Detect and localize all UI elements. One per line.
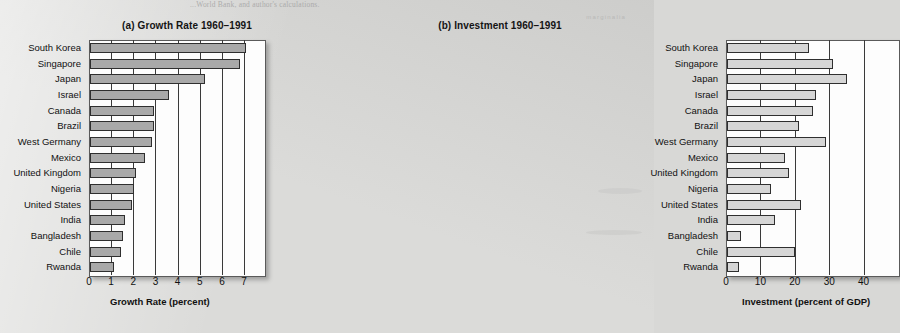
category-label: Bangladesh (644, 228, 722, 244)
category-label: Japan (0, 71, 85, 87)
bar-united-states (727, 200, 801, 210)
bar-bangladesh (727, 231, 741, 241)
bar-row (727, 56, 898, 72)
bar-west-germany (727, 137, 826, 147)
category-label: Nigeria (644, 181, 722, 197)
category-label: Bangladesh (0, 228, 85, 244)
x-tick-label: 0 (86, 276, 92, 287)
chart-panel-investment: (b) Investment 1960–1991 South KoreaSing… (322, 0, 654, 333)
category-label: Rwanda (644, 259, 722, 275)
bar-nigeria (727, 184, 771, 194)
bar-row (90, 56, 264, 72)
bar-singapore (727, 59, 833, 69)
bar-row (90, 181, 264, 197)
bar-united-states (90, 200, 132, 210)
category-label: Canada (644, 103, 722, 119)
x-tick-label: 0 (723, 276, 729, 287)
category-label: Brazil (644, 118, 722, 134)
bar-row (90, 259, 264, 275)
category-label: United Kingdom (644, 165, 722, 181)
bar-japan (727, 74, 847, 84)
bar-row (727, 259, 898, 275)
x-tick-label: 6 (219, 276, 225, 287)
x-tick-label: 4 (175, 276, 181, 287)
bar-row (90, 71, 264, 87)
x-tick-label: 30 (824, 276, 835, 287)
category-label: Chile (644, 244, 722, 260)
bar-row (90, 165, 264, 181)
bar-row (90, 244, 264, 260)
category-label: Japan (644, 71, 722, 87)
category-label: Mexico (644, 150, 722, 166)
bar-row (727, 118, 898, 134)
x-tick-label: 40 (858, 276, 869, 287)
bar-united-kingdom (90, 168, 136, 178)
bar-row (727, 150, 898, 166)
bar-row (727, 244, 898, 260)
category-label: Mexico (0, 150, 85, 166)
bar-bangladesh (90, 231, 123, 241)
x-tick-label: 5 (197, 276, 203, 287)
bar-singapore (90, 59, 240, 69)
bar-row (727, 228, 898, 244)
x-axis-ticks-a: 01234567 (89, 276, 264, 292)
category-label: India (0, 212, 85, 228)
category-label: Israel (0, 87, 85, 103)
category-labels-b: South KoreaSingaporeJapanIsraelCanadaBra… (644, 40, 722, 275)
bars-a (90, 40, 264, 275)
bar-row (90, 118, 264, 134)
bar-india (90, 215, 125, 225)
category-label: India (644, 212, 722, 228)
category-label: Israel (644, 87, 722, 103)
chart-title-a: (a) Growth Rate 1960–1991 (0, 20, 352, 31)
bar-row (727, 103, 898, 119)
bar-japan (90, 74, 205, 84)
bar-row (727, 40, 898, 56)
x-axis-ticks-b: 010203040 (726, 276, 898, 292)
category-label: West Germany (0, 134, 85, 150)
bar-row (727, 212, 898, 228)
bar-israel (90, 90, 169, 100)
bar-row (90, 87, 264, 103)
x-axis-title-b: Investment (percent of GDP) (742, 296, 870, 307)
bar-nigeria (90, 184, 134, 194)
x-tick-label: 20 (789, 276, 800, 287)
bar-rwanda (727, 262, 739, 272)
bar-west-germany (90, 137, 152, 147)
bar-chile (727, 247, 795, 257)
bar-brazil (90, 121, 154, 131)
bar-row (727, 197, 898, 213)
category-label: United Kingdom (0, 165, 85, 181)
bar-rwanda (90, 262, 114, 272)
bar-canada (727, 106, 813, 116)
bar-south-korea (727, 43, 809, 53)
bar-row (90, 103, 264, 119)
chart-title-b: (b) Investment 1960–1991 (322, 20, 666, 31)
category-label: Singapore (644, 56, 722, 72)
bar-india (727, 215, 775, 225)
bar-row (90, 150, 264, 166)
category-label: Canada (0, 103, 85, 119)
x-tick-label: 1 (108, 276, 114, 287)
category-label: Chile (0, 244, 85, 260)
category-label: Brazil (0, 118, 85, 134)
category-label: Singapore (0, 56, 85, 72)
bar-chile (90, 247, 121, 257)
bar-row (90, 228, 264, 244)
bar-south-korea (90, 43, 246, 53)
category-label: South Korea (644, 40, 722, 56)
category-label: South Korea (0, 40, 85, 56)
bar-row (727, 71, 898, 87)
category-labels-a: South KoreaSingaporeJapanIsraelCanadaBra… (0, 40, 85, 275)
bar-israel (727, 90, 816, 100)
category-label: United States (644, 197, 722, 213)
x-tick-label: 10 (755, 276, 766, 287)
bar-united-kingdom (727, 168, 789, 178)
bar-row (90, 197, 264, 213)
bar-canada (90, 106, 154, 116)
bar-mexico (90, 153, 145, 163)
category-label: Nigeria (0, 181, 85, 197)
x-tick-label: 7 (241, 276, 247, 287)
bar-row (90, 134, 264, 150)
category-label: West Germany (644, 134, 722, 150)
